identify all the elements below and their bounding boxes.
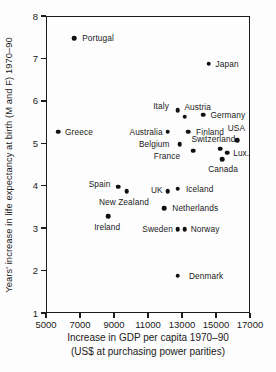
- data-point-canada: [220, 157, 225, 162]
- data-point-ireland: [106, 214, 111, 219]
- point-label-switzerland: Switzerland: [191, 134, 235, 142]
- point-label-new-zealand: New Zealand: [99, 198, 149, 206]
- point-label-japan: Japan: [216, 59, 239, 67]
- data-point-sweden: [176, 227, 181, 232]
- y-axis-tick-label-5: 5: [12, 139, 38, 149]
- point-label-sweden: Sweden: [142, 225, 173, 233]
- y-axis-tick-7: [41, 58, 46, 59]
- data-point-uk: [165, 189, 170, 194]
- x-axis-tick-13000: [181, 313, 182, 318]
- data-point-denmark: [176, 274, 181, 279]
- x-axis-tick-11000: [147, 313, 148, 318]
- data-point-norway: [182, 227, 187, 232]
- y-axis-title: Years' increase in life expectancy at bi…: [4, 37, 14, 293]
- data-point-lux: [225, 150, 230, 155]
- point-label-greece: Greece: [65, 127, 93, 135]
- point-label-norway: Norway: [191, 225, 220, 233]
- x-axis-tick-5000: [45, 313, 46, 318]
- point-label-spain: Spain: [89, 179, 111, 187]
- y-axis-tick-label-1: 1: [12, 309, 38, 319]
- y-axis-tick-4: [41, 185, 46, 186]
- point-label-italy: Italy: [153, 102, 169, 110]
- x-axis-tick-17000: [249, 313, 250, 318]
- point-label-germany: Germany: [210, 110, 245, 118]
- data-point-spain: [116, 184, 121, 189]
- y-axis-tick-5: [41, 143, 46, 144]
- data-point-new-zealand: [125, 189, 130, 194]
- data-point-italy: [176, 108, 181, 113]
- point-label-iceland: Iceland: [186, 185, 213, 193]
- y-axis-tick-label-7: 7: [12, 54, 38, 64]
- data-point-belgium: [177, 142, 182, 147]
- point-label-ireland: Ireland: [94, 223, 120, 231]
- x-axis-tick-7000: [79, 313, 80, 318]
- data-point-portugal: [72, 36, 77, 41]
- point-label-belgium: Belgium: [139, 140, 170, 148]
- y-axis-tick-label-3: 3: [12, 224, 38, 234]
- data-point-greece: [56, 129, 61, 134]
- point-label-denmark: Denmark: [189, 271, 223, 279]
- point-label-portugal: Portugal: [82, 34, 114, 42]
- point-label-austria: Austria: [184, 102, 211, 110]
- plot-area: PortugalJapanItalyAustriaGermanyGreeceAu…: [46, 16, 250, 313]
- y-axis-tick-6: [41, 100, 46, 101]
- y-axis-tick-label-4: 4: [12, 181, 38, 191]
- point-label-australia: Australia: [130, 127, 163, 135]
- data-point-germany: [201, 112, 206, 117]
- y-axis-tick-label-6: 6: [12, 96, 38, 106]
- data-point-switzerland: [218, 146, 223, 151]
- data-point-iceland: [176, 187, 181, 192]
- x-axis-tick-label-17000: 17000: [230, 320, 270, 330]
- point-label-canada: Canada: [208, 165, 238, 173]
- data-point-finland: [186, 129, 191, 134]
- x-axis-tick-9000: [113, 313, 114, 318]
- x-axis-title: Increase in GDP per capita 1970–90: [30, 333, 266, 343]
- point-label-uk: UK: [151, 186, 163, 194]
- y-axis-tick-8: [41, 15, 46, 16]
- data-point-austria: [182, 114, 187, 119]
- scatter-chart: PortugalJapanItalyAustriaGermanyGreeceAu…: [0, 0, 276, 372]
- point-label-netherlands: Netherlands: [172, 204, 218, 212]
- point-label-france: France: [154, 151, 180, 159]
- point-label-lux: Lux.: [233, 148, 249, 156]
- x-axis-title-subtitle: (US$ at purchasing power parities): [30, 347, 266, 357]
- data-point-netherlands: [162, 206, 167, 211]
- y-axis-tick-label-8: 8: [12, 12, 38, 22]
- y-axis-tick-label-2: 2: [12, 266, 38, 276]
- y-axis-tick-2: [41, 270, 46, 271]
- x-axis-tick-15000: [215, 313, 216, 318]
- point-label-usa: USA: [228, 124, 245, 132]
- data-point-japan: [206, 61, 211, 66]
- data-point-france: [191, 148, 196, 153]
- y-axis-tick-1: [41, 312, 46, 313]
- y-axis-tick-3: [41, 227, 46, 228]
- data-point-usa: [235, 138, 240, 143]
- data-point-australia: [165, 129, 170, 134]
